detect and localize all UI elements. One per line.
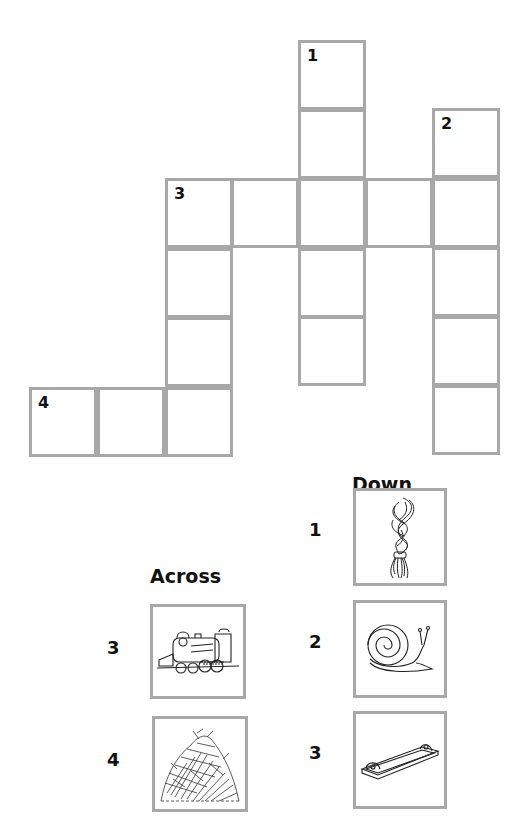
tray-icon [358,735,442,785]
snail-icon [358,619,442,679]
down-clue-number: 3 [309,742,322,763]
grid-cell[interactable] [165,248,233,318]
steam-locomotive-icon [155,628,241,676]
grid-cell[interactable] [298,316,366,386]
grid-cell[interactable] [231,178,299,248]
grid-cell[interactable] [165,387,233,457]
across-heading: Across [150,565,221,587]
across-clue-3-image [150,604,246,699]
grid-cell-4-across-start[interactable]: 4 [29,387,97,457]
grid-cell[interactable] [432,316,500,386]
down-clue-3-image [353,711,447,809]
down-clue-1-image [353,488,447,586]
across-clue-number: 3 [107,637,120,658]
across-clue-number: 4 [107,749,120,770]
grid-cell[interactable] [298,178,366,248]
grid-cell[interactable] [298,248,366,318]
grid-cell[interactable] [432,385,500,455]
clue-number: 4 [38,393,49,412]
down-clue-2-image [353,600,447,698]
grid-cell[interactable] [165,317,233,387]
grid-cell[interactable] [432,178,500,248]
grid-cell[interactable] [97,387,165,457]
down-clue-number: 2 [309,631,322,652]
across-clue-4-image [152,716,248,812]
grid-cell-3-start[interactable]: 3 [165,178,233,248]
clue-number: 3 [174,184,185,203]
clue-number: 1 [307,46,318,65]
clue-number: 2 [441,114,452,133]
grid-cell-1-down-start[interactable]: 1 [298,40,366,110]
grid-cell[interactable] [365,178,433,248]
haystack-icon [157,723,243,805]
grid-cell[interactable] [298,109,366,179]
down-clue-number: 1 [309,519,322,540]
grid-cell-2-down-start[interactable]: 2 [432,108,500,178]
braid-icon [375,494,425,580]
grid-cell[interactable] [432,247,500,317]
